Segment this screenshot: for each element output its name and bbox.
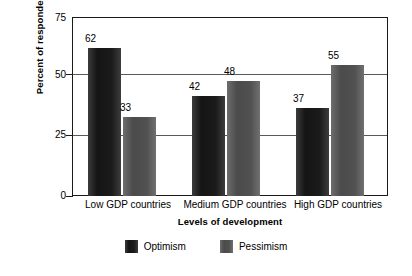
bar-value-optimism-high-gdp: 37 (281, 94, 316, 104)
bar-value-optimism-low-gdp: 62 (73, 34, 108, 44)
legend-label-pessimism: Pessimism (239, 241, 287, 252)
legend-item-pessimism[interactable]: Pessimism (220, 240, 287, 253)
bar-pessimism-high-gdp[interactable] (331, 65, 364, 196)
bar-optimism-medium-gdp[interactable] (192, 96, 225, 196)
bar-pessimism-medium-gdp[interactable] (227, 81, 260, 196)
x-category-label-low-gdp: Low GDP countries (78, 199, 178, 211)
bar-value-pessimism-low-gdp: 33 (108, 103, 143, 113)
bar-value-pessimism-medium-gdp: 48 (212, 67, 247, 77)
legend-swatch-pessimism-icon (220, 240, 233, 253)
chart-legend: Optimism Pessimism (0, 240, 412, 253)
y-tick-label-75: 75 (26, 13, 66, 23)
legend-swatch-optimism-icon (125, 240, 138, 253)
y-tick-label-0: 0 (26, 191, 66, 201)
x-axis-title: Levels of development (72, 216, 388, 227)
bar-chart: Percent of respondents 75 50 25 0 62 33 … (0, 0, 412, 276)
bar-value-optimism-medium-gdp: 42 (177, 82, 212, 92)
x-category-label-medium-gdp: Medium GDP countries (175, 199, 295, 211)
legend-item-optimism[interactable]: Optimism (125, 240, 186, 253)
y-tick-mark-0 (66, 196, 73, 197)
y-tick-label-25: 25 (26, 130, 66, 140)
legend-label-optimism: Optimism (144, 241, 186, 252)
bar-value-pessimism-high-gdp: 55 (316, 51, 351, 61)
bar-optimism-low-gdp[interactable] (88, 48, 121, 196)
y-tick-label-50: 50 (26, 70, 66, 80)
x-category-label-high-gdp: High GDP countries (288, 199, 388, 211)
bar-optimism-high-gdp[interactable] (296, 108, 329, 196)
bar-pessimism-low-gdp[interactable] (123, 117, 156, 196)
